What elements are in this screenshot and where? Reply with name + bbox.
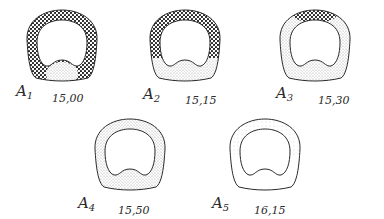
- time-a1: 15,00: [52, 92, 84, 105]
- time-a3: 15,30: [318, 94, 350, 107]
- section-a3: [275, 5, 355, 88]
- section-a4: [90, 117, 170, 197]
- label-a2: A2: [143, 85, 160, 104]
- time-a4: 15,50: [118, 204, 150, 217]
- label-a4: A4: [78, 194, 95, 213]
- diagram-canvas: [0, 0, 384, 219]
- section-a2: [145, 8, 225, 88]
- label-a3: A3: [276, 84, 293, 103]
- section-a5: [225, 117, 305, 197]
- label-a5: A5: [212, 194, 229, 213]
- label-a1: A1: [16, 82, 33, 101]
- time-a5: 16,15: [254, 204, 286, 217]
- time-a2: 15,15: [185, 94, 217, 107]
- section-a1: [22, 8, 102, 88]
